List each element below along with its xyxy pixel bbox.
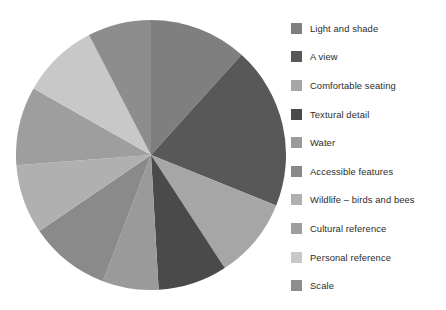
legend-item[interactable]: Water [291, 128, 446, 157]
legend-item[interactable]: Scale [291, 271, 446, 300]
legend-item-label: Cultural reference [310, 223, 386, 234]
legend-item-label: Personal reference [310, 252, 391, 263]
pie-slice-group [16, 20, 286, 290]
legend-item[interactable]: Textural detail [291, 100, 446, 129]
legend-color-swatch [291, 166, 302, 177]
pie-chart-svg [16, 20, 286, 290]
legend-color-swatch [291, 223, 302, 234]
legend-item[interactable]: Wildlife – birds and bees [291, 186, 446, 215]
legend-color-swatch [291, 280, 302, 291]
pie-chart-figure: Light and shadeA viewComfortable seating… [0, 0, 446, 310]
legend-item[interactable]: Comfortable seating [291, 71, 446, 100]
legend-color-swatch [291, 80, 302, 91]
legend-item-label: Textural detail [310, 109, 369, 120]
legend-item[interactable]: Light and shade [291, 14, 446, 43]
legend-item[interactable]: Accessible features [291, 157, 446, 186]
pie-chart-plot-area [16, 20, 286, 290]
legend-color-swatch [291, 194, 302, 205]
legend-item[interactable]: Cultural reference [291, 214, 446, 243]
legend-item-label: Comfortable seating [310, 80, 396, 91]
legend-item-label: Light and shade [310, 23, 378, 34]
legend-item[interactable]: A view [291, 43, 446, 72]
chart-legend: Light and shadeA viewComfortable seating… [291, 14, 446, 302]
legend-item-label: Scale [310, 280, 334, 291]
legend-item[interactable]: Personal reference [291, 243, 446, 272]
legend-item-label: A view [310, 51, 338, 62]
legend-color-swatch [291, 23, 302, 34]
legend-item-label: Wildlife – birds and bees [310, 194, 415, 205]
legend-color-swatch [291, 252, 302, 263]
legend-item-label: Accessible features [310, 166, 393, 177]
legend-color-swatch [291, 137, 302, 148]
legend-color-swatch [291, 51, 302, 62]
legend-color-swatch [291, 109, 302, 120]
legend-item-label: Water [310, 137, 335, 148]
